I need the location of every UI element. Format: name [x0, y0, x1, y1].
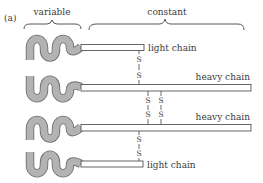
svg-text:S: S [136, 135, 141, 144]
variable-region-brace [24, 20, 81, 29]
light-chain-bottom: light chain [30, 152, 196, 173]
svg-text:S: S [136, 55, 141, 64]
constant-region-label: constant [147, 7, 187, 17]
chain-label: light chain [148, 43, 197, 53]
constant-domain-bar [81, 161, 143, 167]
svg-text:S: S [158, 96, 163, 105]
disulfide-bond: S S [136, 131, 141, 161]
svg-text:S: S [145, 96, 150, 105]
variable-domain-wave [30, 39, 81, 60]
chain-label: heavy chain [196, 72, 251, 82]
variable-domain-wave [30, 152, 81, 173]
svg-text:S: S [158, 110, 163, 119]
panel-label: (a) [4, 13, 16, 23]
svg-text:S: S [145, 110, 150, 119]
constant-region-brace [89, 19, 244, 30]
disulfide-bond: S S [145, 91, 150, 125]
chain-label: heavy chain [196, 112, 251, 122]
constant-domain-bar [81, 125, 251, 132]
antibody-structure-diagram: (a) variable constant light chain S S he… [0, 0, 263, 183]
light-chain-top: light chain [30, 39, 197, 60]
constant-domain-bar [81, 85, 251, 92]
svg-text:S: S [136, 149, 141, 158]
disulfide-bond: S S [136, 51, 141, 85]
svg-text:S: S [136, 71, 141, 80]
disulfide-bond: S S [158, 91, 163, 125]
variable-domain-wave [30, 76, 81, 98]
chain-label: light chain [147, 160, 196, 170]
variable-domain-wave [30, 120, 81, 140]
constant-domain-bar [81, 45, 144, 51]
variable-region-label: variable [33, 7, 71, 17]
